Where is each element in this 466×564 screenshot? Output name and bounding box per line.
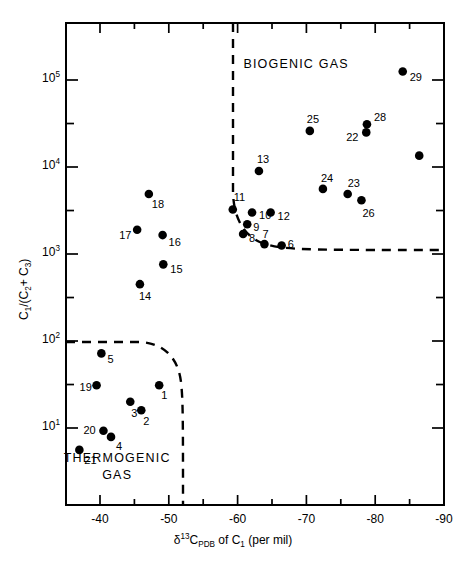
data-point: [155, 381, 164, 390]
data-point-label-26: 26: [362, 208, 374, 219]
axis-ticks: [66, 23, 444, 505]
data-point-label-14: 14: [139, 291, 151, 302]
data-point: [243, 220, 252, 229]
y-tick-mantissa: 10: [42, 71, 55, 85]
data-point-label-15: 15: [170, 264, 182, 275]
data-point-label-17: 17: [119, 230, 131, 241]
data-point: [255, 167, 264, 176]
data-point: [145, 190, 154, 199]
data-point: [319, 185, 328, 194]
region-label-thermogenic: THERMOGENICGAS: [62, 450, 172, 484]
data-point-label-10: 10: [259, 210, 271, 221]
data-point: [343, 190, 352, 199]
data-point: [159, 260, 168, 269]
data-point: [126, 398, 135, 407]
data-point: [228, 205, 237, 214]
y-tick-mantissa: 10: [42, 245, 55, 259]
data-point-label-2: 2: [143, 416, 149, 427]
data-point-label-18: 18: [152, 199, 164, 210]
y-tick-mantissa: 10: [42, 419, 55, 433]
data-point-label-3: 3: [131, 408, 137, 419]
y-tick-exponent: 5: [55, 70, 60, 79]
y-tick-exponent: 2: [55, 331, 60, 340]
data-points: [75, 67, 423, 454]
region-label-biogenic: BIOGENIC GAS: [231, 58, 361, 71]
data-point: [306, 127, 315, 136]
x-tick-label-4: -80: [355, 513, 395, 525]
data-point-label-11: 11: [234, 192, 245, 203]
data-point-label-29: 29: [410, 72, 422, 83]
data-point: [239, 230, 248, 239]
y-tick-label-2: 103: [28, 246, 60, 258]
x-tick-label-0: -40: [80, 513, 120, 525]
data-point: [248, 208, 257, 217]
data-point: [92, 381, 101, 390]
thermogenic-line-1: THERMOGENIC: [62, 450, 172, 467]
y-tick-label-4: 101: [28, 420, 60, 432]
y-axis-title: C1/(C2+ C3): [18, 259, 30, 320]
data-point-label-7: 7: [262, 229, 268, 240]
y-tick-mantissa: 10: [42, 332, 55, 346]
y-tick-exponent: 1: [55, 418, 60, 427]
data-point: [158, 231, 167, 240]
y-tick-exponent: 4: [55, 157, 60, 166]
data-point-label-1: 1: [161, 390, 167, 401]
data-point: [97, 349, 106, 358]
facies-boundaries: [66, 23, 444, 505]
data-point: [99, 426, 108, 435]
data-point-label-12: 12: [278, 211, 290, 222]
data-point: [357, 196, 366, 205]
y-tick-label-3: 102: [28, 333, 60, 345]
data-point-label-22: 22: [346, 132, 358, 143]
data-point-label-5: 5: [107, 354, 113, 365]
bernard-diagram: 105104103102101 -40-50-60-70-80-90 12345…: [0, 0, 466, 564]
y-tick-label-1: 104: [28, 159, 60, 171]
data-point-label-20: 20: [83, 425, 95, 436]
x-tick-label-5: -90: [424, 513, 464, 525]
data-point-label-13: 13: [257, 154, 269, 165]
data-point-label-25: 25: [307, 114, 319, 125]
data-point: [415, 151, 424, 160]
data-point: [107, 433, 116, 442]
x-tick-label-1: -50: [149, 513, 189, 525]
data-point-label-28: 28: [374, 112, 386, 123]
data-point-label-16: 16: [169, 237, 181, 248]
data-point: [277, 241, 286, 250]
y-tick-exponent: 3: [55, 244, 60, 253]
data-point: [137, 406, 146, 415]
data-point-label-24: 24: [321, 173, 333, 184]
data-point-label-19: 19: [80, 382, 92, 393]
data-point-label-9: 9: [253, 222, 259, 233]
plot-frame: [66, 23, 444, 505]
data-point: [362, 128, 371, 137]
x-axis-title: δ13CPDB of C1 (per mil): [0, 534, 466, 546]
x-tick-label-3: -70: [286, 513, 326, 525]
data-point: [398, 67, 407, 76]
data-point-label-8: 8: [249, 233, 255, 244]
data-point: [133, 225, 142, 234]
data-point: [136, 280, 145, 289]
data-point: [363, 120, 372, 129]
x-tick-label-2: -60: [218, 513, 258, 525]
data-point: [260, 240, 269, 249]
y-tick-label-0: 105: [28, 72, 60, 84]
data-point-label-6: 6: [288, 239, 294, 250]
data-point-label-23: 23: [348, 178, 360, 189]
thermogenic-line-2: GAS: [62, 467, 172, 484]
y-tick-mantissa: 10: [42, 158, 55, 172]
